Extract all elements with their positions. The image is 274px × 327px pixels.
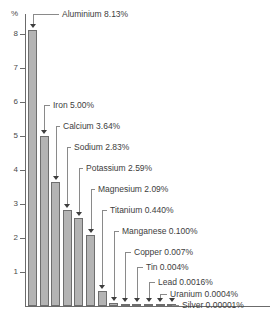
bar (156, 304, 165, 306)
data-label-silver: Silver 0.00001% (182, 301, 244, 310)
bar (74, 218, 83, 306)
bar (63, 210, 72, 306)
y-axis-line (25, 14, 26, 306)
annotation-arrow (99, 285, 105, 289)
bar (144, 304, 153, 306)
leader-line-vertical (114, 231, 115, 297)
y-axis-tick (20, 238, 25, 239)
y-axis-tick-label: 4 (2, 166, 18, 174)
bar (132, 304, 141, 306)
leader-line-vertical (125, 252, 126, 298)
leader-line-horizontal (160, 294, 167, 295)
y-axis-tick-label: 5 (2, 132, 18, 140)
annotation-arrow (122, 298, 128, 302)
y-axis-tick-label: 1 (2, 268, 18, 276)
annotation-arrow (134, 298, 140, 302)
y-axis-tick (20, 34, 25, 35)
data-label-aluminium: Aluminium 8.13% (62, 10, 128, 19)
y-axis-tick-label: 6 (2, 98, 18, 106)
y-axis-tick-label: 8 (2, 30, 18, 38)
bar (40, 136, 49, 306)
y-axis-tick (20, 272, 25, 273)
leader-line-vertical (79, 168, 80, 212)
leader-line-vertical (33, 14, 34, 24)
y-axis-tick (20, 68, 25, 69)
bar (121, 304, 130, 306)
leader-line-vertical (137, 267, 138, 298)
data-label-copper: Copper 0.007% (134, 248, 193, 257)
annotation-arrow (53, 176, 59, 180)
y-axis-tick-label: 7 (2, 64, 18, 72)
annotation-arrow (169, 298, 175, 302)
bar (98, 291, 107, 306)
data-label-uranium: Uranium 0.0004% (170, 290, 238, 299)
bar (51, 182, 60, 306)
annotation-arrow (157, 298, 163, 302)
annotation-arrow (64, 204, 70, 208)
y-axis-tick-label: 3 (2, 200, 18, 208)
data-label-potassium: Potassium 2.59% (86, 164, 152, 173)
bar-chart: % 12345678 Aluminium 8.13%Iron 5.00%Calc… (0, 0, 274, 327)
leader-line-vertical (67, 147, 68, 204)
y-axis-tick-label: 2 (2, 234, 18, 242)
leader-line-vertical (149, 282, 150, 298)
y-axis-tick (20, 102, 25, 103)
annotation-arrow (41, 130, 47, 134)
annotation-arrow (76, 212, 82, 216)
data-label-calcium: Calcium 3.64% (63, 122, 120, 131)
data-label-iron: Iron 5.00% (53, 101, 94, 110)
data-label-tin: Tin 0.004% (146, 263, 189, 272)
data-label-titanium: Titanium 0.440% (110, 206, 173, 215)
y-axis-unit-label: % (11, 10, 18, 18)
bar (109, 303, 118, 306)
annotation-arrow (30, 24, 36, 28)
bar (28, 30, 37, 306)
leader-line-vertical (56, 126, 57, 176)
leader-line-horizontal (172, 305, 179, 306)
annotation-arrow (146, 298, 152, 302)
leader-line-vertical (102, 210, 103, 285)
y-axis-tick (20, 170, 25, 171)
data-label-magnesium: Magnesium 2.09% (98, 185, 168, 194)
leader-line-vertical (91, 189, 92, 229)
data-label-manganese: Manganese 0.100% (122, 227, 198, 236)
y-axis-tick (20, 204, 25, 205)
data-label-sodium: Sodium 2.83% (74, 143, 129, 152)
annotation-arrow (111, 297, 117, 301)
leader-line-vertical (44, 105, 45, 130)
bar (86, 235, 95, 306)
annotation-arrow (88, 229, 94, 233)
data-label-lead: Lead 0.0016% (158, 278, 213, 287)
y-axis-tick (20, 136, 25, 137)
leader-line-horizontal (33, 14, 60, 15)
